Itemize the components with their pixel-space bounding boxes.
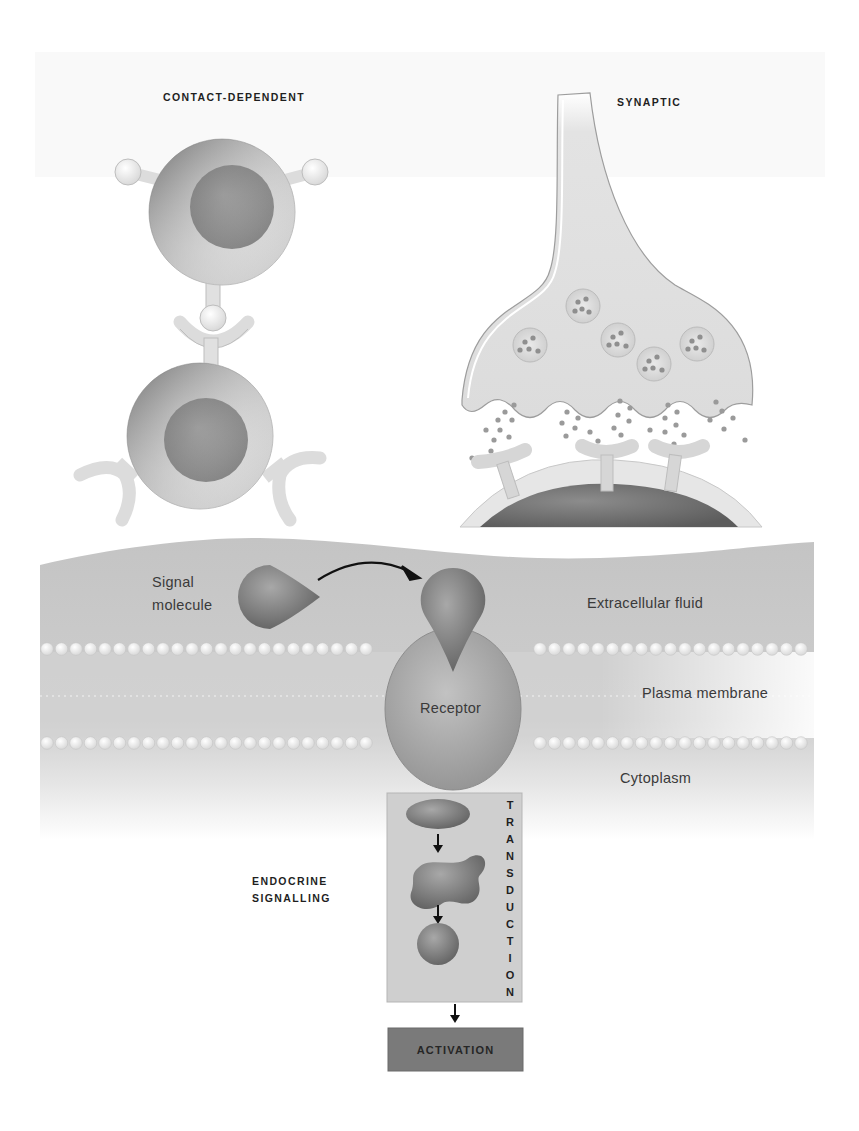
contact-dependent-illustration — [80, 139, 328, 520]
transduction-letter: C — [506, 916, 514, 933]
endocrine-title-line2: SIGNALLING — [252, 892, 331, 904]
ghost-band — [35, 52, 825, 177]
signal-molecule-label-line2: molecule — [152, 597, 212, 613]
transduction-letter: D — [506, 882, 514, 899]
transduction-label: TRANSDUCTION — [503, 797, 517, 1001]
transduction-letter: U — [506, 899, 514, 916]
diagram-canvas — [0, 0, 859, 1131]
receptor-label: Receptor — [420, 700, 481, 716]
contact-dependent-title: CONTACT-DEPENDENT — [163, 91, 305, 103]
transduction-letter: R — [506, 814, 514, 831]
transduction-letter: T — [507, 797, 514, 814]
transduction-letter: S — [506, 865, 513, 882]
transduction-letter: N — [506, 984, 514, 1001]
cytoplasm-label: Cytoplasm — [620, 770, 691, 786]
transduction-letter: T — [507, 933, 514, 950]
plasma-membrane-label: Plasma membrane — [642, 685, 768, 701]
transduction-box — [387, 793, 522, 1002]
transduction-letter: N — [506, 848, 514, 865]
signal-molecule-label-line1: Signal — [152, 574, 194, 590]
synaptic-title: SYNAPTIC — [617, 96, 681, 108]
activation-label: ACTIVATION — [388, 1028, 523, 1071]
transduction-letter: A — [506, 831, 514, 848]
extracellular-fluid-label: Extracellular fluid — [587, 595, 703, 611]
transduction-letter: O — [506, 967, 515, 984]
transduction-letter: I — [508, 950, 511, 967]
endocrine-title-line1: ENDOCRINE — [252, 875, 328, 887]
activation-arrow-icon — [450, 1004, 460, 1023]
cell-signalling-diagram: CONTACT-DEPENDENT SYNAPTIC Signal molecu… — [0, 0, 859, 1131]
